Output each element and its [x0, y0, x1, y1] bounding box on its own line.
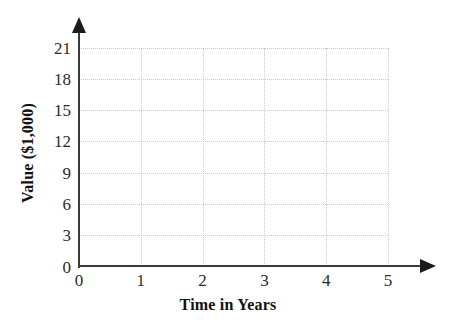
gridline-vertical-2	[203, 48, 204, 266]
x-tick-0: 0	[59, 272, 99, 289]
gridline-vertical-4	[326, 48, 327, 266]
y-axis-line	[78, 30, 80, 268]
x-axis-arrow-icon	[420, 259, 436, 273]
x-tick-2: 2	[183, 272, 223, 289]
y-axis-title: Value ($1,000)	[19, 63, 37, 243]
gridline-vertical-1	[141, 48, 142, 266]
x-tick-3: 3	[244, 272, 284, 289]
y-tick-label: 9	[38, 165, 71, 182]
y-tick-label: 6	[38, 196, 71, 213]
x-tick-5: 5	[368, 272, 408, 289]
gridline-horizontal-12	[79, 141, 388, 142]
x-axis-line	[78, 265, 423, 267]
y-axis-arrow-icon	[72, 17, 86, 33]
plot-area	[79, 48, 388, 266]
y-tick-label: 12	[38, 133, 71, 150]
gridline-vertical-5	[388, 48, 389, 266]
x-tick-4: 4	[306, 272, 346, 289]
gridline-horizontal-3	[79, 235, 388, 236]
gridline-horizontal-18	[79, 79, 388, 80]
gridline-horizontal-15	[79, 110, 388, 111]
x-axis-title: Time in Years	[0, 296, 456, 314]
y-tick-label: 3	[38, 227, 71, 244]
y-tick-label: 18	[38, 71, 71, 88]
y-tick-label: 15	[38, 102, 71, 119]
y-tick-label: 21	[38, 40, 71, 57]
gridline-horizontal-21	[79, 48, 388, 49]
gridline-vertical-3	[264, 48, 265, 266]
x-tick-1: 1	[121, 272, 161, 289]
gridline-horizontal-9	[79, 173, 388, 174]
gridline-horizontal-6	[79, 204, 388, 205]
chart-figure: 21 18 15 12 9 6 3 0 0 1 2 3 4 5 Time in …	[0, 0, 456, 330]
